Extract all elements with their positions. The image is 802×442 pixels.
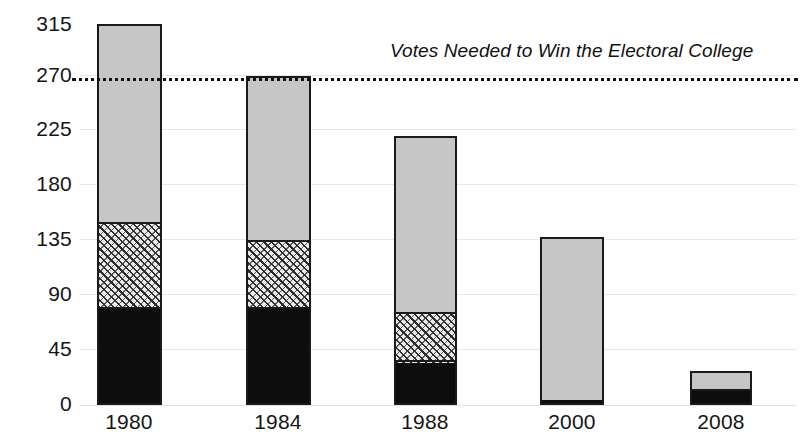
x-axis: 1980 1984 1988 2000 2008 [0, 0, 802, 442]
x-tick-1984: 1984 [254, 410, 302, 434]
x-tick-2008: 2008 [697, 410, 745, 434]
x-tick-2000: 2000 [548, 410, 596, 434]
electoral-college-stacked-bar-chart: 315 270 225 180 135 90 45 0 [0, 0, 802, 442]
x-tick-1988: 1988 [401, 410, 449, 434]
x-tick-1980: 1980 [105, 410, 153, 434]
